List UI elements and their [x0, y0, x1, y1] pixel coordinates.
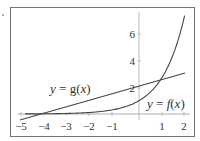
y-tick-label: 4 [130, 55, 136, 67]
chart: −5 −4 −3 −2 −1 1 2 2 4 6 y = g(x) y = f(… [0, 0, 200, 141]
x-tick-label: −2 [83, 120, 95, 132]
x-tick-label: −4 [38, 120, 50, 132]
x-tick-label: 2 [181, 120, 187, 132]
x-tick-label: −3 [60, 120, 72, 132]
x-tick-label: −1 [106, 120, 118, 132]
label-g: y = g(x) [48, 81, 91, 96]
label-f: y = f(x) [145, 96, 185, 111]
x-tick-label: −5 [15, 120, 27, 132]
chart-frame [11, 8, 195, 137]
y-tick-label: 6 [130, 28, 136, 40]
y-tick-labels: 2 4 6 [130, 28, 136, 94]
x-tick-labels: −5 −4 −3 −2 −1 1 2 [15, 120, 187, 132]
x-tick-label: 1 [159, 120, 165, 132]
